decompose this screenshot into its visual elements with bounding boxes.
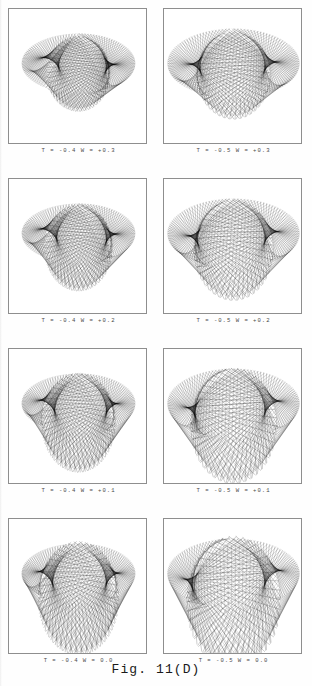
panel-panel-r1c1: T = -0.4 W = +0.3 <box>8 8 149 154</box>
caustic-plot <box>9 349 147 484</box>
panel-frame <box>8 178 147 314</box>
panel-panel-r2c2: T = -0.5 W = +0.2 <box>163 178 304 324</box>
caustic-plot <box>9 179 147 314</box>
caustic-plot <box>164 349 302 484</box>
panel-panel-r3c2: T = -0.5 W = +0.1 <box>163 348 304 494</box>
panel-panel-r4c1: T = -0.4 W = 0.0 <box>8 518 149 664</box>
panel-frame <box>163 8 302 144</box>
panel-panel-r4c2: T = -0.5 W = 0.0 <box>163 518 304 664</box>
panel-grid: T = -0.4 W = +0.3T = -0.5 W = +0.3T = -0… <box>0 0 312 660</box>
panel-caption: T = -0.4 W = +0.1 <box>8 487 149 494</box>
panel-panel-r1c2: T = -0.5 W = +0.3 <box>163 8 304 154</box>
caustic-plot <box>164 9 302 144</box>
caustic-plot <box>164 519 302 654</box>
caustic-plot <box>9 519 147 654</box>
panel-frame <box>163 178 302 314</box>
panel-caption: T = -0.5 W = +0.3 <box>163 147 304 154</box>
caustic-plot <box>9 9 147 144</box>
caustic-plot <box>164 179 302 314</box>
panel-caption: T = -0.5 W = +0.1 <box>163 487 304 494</box>
panel-frame <box>163 348 302 484</box>
panel-frame <box>8 8 147 144</box>
panel-caption: T = -0.4 W = +0.3 <box>8 147 149 154</box>
figure-page: T = -0.4 W = +0.3T = -0.5 W = +0.3T = -0… <box>0 0 312 686</box>
panel-caption: T = -0.4 W = +0.2 <box>8 317 149 324</box>
panel-panel-r2c1: T = -0.4 W = +0.2 <box>8 178 149 324</box>
panel-panel-r3c1: T = -0.4 W = +0.1 <box>8 348 149 494</box>
panel-frame <box>8 518 147 654</box>
figure-caption: Fig. 11(D) <box>0 662 312 677</box>
panel-caption: T = -0.5 W = +0.2 <box>163 317 304 324</box>
panel-frame <box>163 518 302 654</box>
panel-frame <box>8 348 147 484</box>
